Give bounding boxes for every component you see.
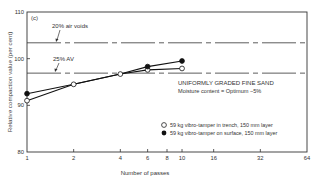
ref-arrow-25 (56, 63, 59, 70)
open-data-point (180, 66, 185, 71)
ref-arrow-20 (57, 30, 60, 40)
ref-label-25-av: 25% AV (53, 56, 74, 62)
x-axis-label: Number of passes (121, 170, 170, 176)
legend-open-circle-icon (162, 123, 167, 128)
x-tick-label: 6 (146, 155, 149, 161)
chart: 12468101632648090100110 (c) 20% air void… (0, 0, 312, 178)
x-tick-label: 16 (210, 155, 216, 161)
open-data-point (25, 98, 30, 103)
ref-label-20-air-voids: 20% air voids (52, 23, 88, 29)
y-tick-label: 110 (15, 9, 24, 15)
ref-arrowhead-25 (55, 69, 58, 73)
x-tick-label: 1 (25, 155, 28, 161)
legend-open-label: 59 kg vibro-tamper in trench, 150 mm lay… (170, 122, 273, 128)
legend: 59 kg vibro-tamper in trench, 150 mm lay… (162, 122, 278, 136)
open-data-point (71, 82, 76, 87)
data-series (25, 59, 185, 103)
x-tick-label: 4 (119, 155, 123, 161)
panel-label: (c) (31, 15, 38, 21)
filled-data-point (180, 59, 185, 64)
legend-filled-circle-icon (162, 131, 167, 136)
y-tick-label: 80 (18, 149, 24, 155)
x-tick-label: 64 (304, 155, 311, 161)
open-data-point (118, 72, 123, 77)
x-tick-label: 10 (179, 155, 185, 161)
x-tick-label: 32 (257, 155, 263, 161)
y-tick-label: 100 (14, 56, 24, 62)
filled-data-point (25, 91, 30, 96)
series-line-1 (27, 61, 182, 94)
annotation-soil-type: UNIFORMLY GRADED FINE SAND (178, 80, 274, 86)
annotation-moisture: Moisture content = Optimum −5% (178, 88, 261, 94)
legend-filled-label: 59 kg vibro-tamper on surface, 150 mm la… (170, 130, 277, 136)
y-tick-label: 90 (18, 102, 24, 108)
x-tick-label: 2 (72, 155, 75, 161)
filled-data-point (145, 64, 150, 69)
x-tick-label: 8 (165, 155, 168, 161)
ref-arrowhead-20 (56, 39, 59, 43)
